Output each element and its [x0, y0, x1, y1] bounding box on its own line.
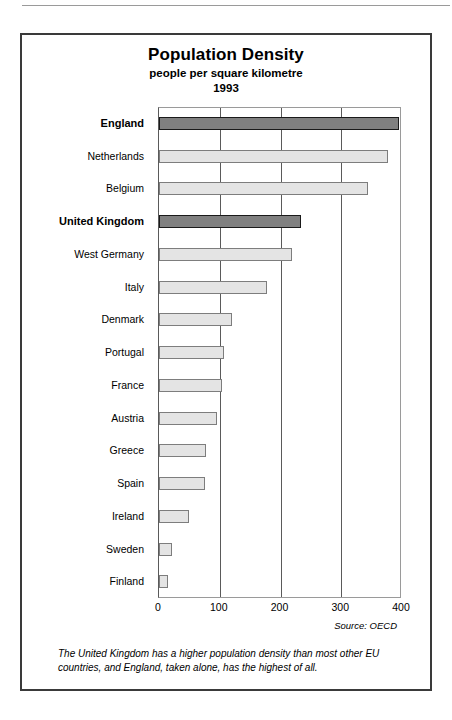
- category-label-italy: Italy: [125, 271, 144, 304]
- chart-frame: Population Density people per square kil…: [20, 33, 432, 691]
- bar-row: [159, 534, 400, 567]
- bar-greece[interactable]: [159, 444, 206, 457]
- bar-west-germany[interactable]: [159, 248, 292, 261]
- x-tick-300: 300: [331, 601, 349, 613]
- bar-row: [159, 173, 400, 206]
- category-label-belgium: Belgium: [106, 172, 144, 205]
- x-tick-100: 100: [210, 601, 228, 613]
- bar-row: [159, 468, 400, 501]
- category-label-france: France: [111, 369, 144, 402]
- chart-subtitle: people per square kilometre: [22, 66, 430, 81]
- bar-row: [159, 304, 400, 337]
- bar-row: [159, 272, 400, 305]
- category-label-sweden: Sweden: [106, 533, 144, 566]
- category-label-netherlands: Netherlands: [87, 140, 144, 173]
- bar-row: [159, 337, 400, 370]
- bar-spain[interactable]: [159, 477, 205, 490]
- bar-rows: [159, 108, 400, 597]
- x-axis-ticks: 0100200300400: [158, 601, 401, 617]
- chart-caption: The United Kingdom has a higher populati…: [58, 647, 404, 675]
- bar-row: [159, 108, 400, 141]
- bar-sweden[interactable]: [159, 543, 172, 556]
- category-label-austria: Austria: [111, 402, 144, 435]
- bar-ireland[interactable]: [159, 510, 189, 523]
- bar-england[interactable]: [159, 117, 399, 130]
- category-label-finland: Finland: [110, 565, 144, 598]
- category-label-ireland: Ireland: [112, 500, 144, 533]
- chart-title: Population Density: [22, 45, 430, 65]
- bar-row: [159, 206, 400, 239]
- bar-portugal[interactable]: [159, 346, 224, 359]
- page-top-divider: [22, 5, 450, 6]
- bar-row: [159, 141, 400, 174]
- bar-united-kingdom[interactable]: [159, 215, 301, 228]
- x-tick-400: 400: [392, 601, 410, 613]
- bar-row: [159, 239, 400, 272]
- bar-finland[interactable]: [159, 575, 168, 588]
- category-label-england: England: [101, 107, 144, 140]
- category-label-portugal: Portugal: [105, 336, 144, 369]
- source-note: Source: OECD: [334, 620, 397, 631]
- bar-row: [159, 403, 400, 436]
- bar-denmark[interactable]: [159, 313, 232, 326]
- bar-row: [159, 501, 400, 534]
- bar-row: [159, 435, 400, 468]
- bar-italy[interactable]: [159, 281, 267, 294]
- plot-area: [158, 107, 401, 598]
- bar-netherlands[interactable]: [159, 150, 388, 163]
- chart-page: Population Density people per square kil…: [0, 0, 452, 720]
- bar-row: [159, 566, 400, 599]
- category-axis-labels: EnglandNetherlandsBelgiumUnited KingdomW…: [22, 107, 158, 598]
- x-tick-200: 200: [271, 601, 289, 613]
- bar-belgium[interactable]: [159, 182, 368, 195]
- category-label-denmark: Denmark: [101, 303, 144, 336]
- category-label-west-germany: West Germany: [74, 238, 144, 271]
- bar-france[interactable]: [159, 379, 222, 392]
- chart-year: 1993: [22, 81, 430, 95]
- x-tick-0: 0: [155, 601, 161, 613]
- category-label-spain: Spain: [117, 467, 144, 500]
- bar-row: [159, 370, 400, 403]
- bar-austria[interactable]: [159, 412, 217, 425]
- category-label-united-kingdom: United Kingdom: [59, 205, 144, 238]
- category-label-greece: Greece: [110, 434, 144, 467]
- chart-title-block: Population Density people per square kil…: [22, 45, 430, 95]
